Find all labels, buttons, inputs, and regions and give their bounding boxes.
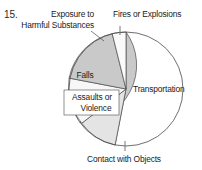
pie-chart-svg: 15. Exposure to Harmful Substances Fires… xyxy=(0,0,202,170)
figure-number: 15. xyxy=(4,9,18,20)
label-assaults-line2: Violence xyxy=(81,103,112,113)
label-transportation: Transportation xyxy=(133,84,185,94)
label-exposure-line1: Exposure to xyxy=(51,9,95,19)
label-falls: Falls xyxy=(77,70,94,80)
label-exposure-line2: Harmful Substances xyxy=(21,20,94,30)
pie-chart-figure: 15. Exposure to Harmful Substances Fires… xyxy=(0,0,202,170)
label-assaults-line1: Assaults or xyxy=(72,92,112,102)
label-contact-with-objects: Contact with Objects xyxy=(87,154,161,164)
label-fires-or-explosions: Fires or Explosions xyxy=(113,9,181,19)
